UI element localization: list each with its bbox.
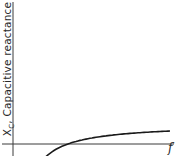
- reactance-chart: XC, Capacitive reactance f: [0, 0, 176, 156]
- y-axis-label: XC, Capacitive reactance: [1, 0, 15, 139]
- x-axis-label: f: [168, 141, 172, 155]
- chart-plot-area: [0, 0, 176, 156]
